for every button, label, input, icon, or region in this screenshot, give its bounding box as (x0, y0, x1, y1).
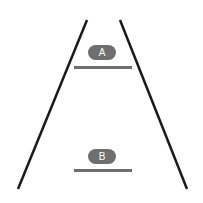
left-edge (18, 20, 87, 189)
level-b-label: B (88, 149, 116, 164)
level-b-line (74, 169, 132, 172)
right-edge (120, 20, 187, 189)
level-a-line (74, 66, 132, 69)
level-a-label: A (88, 45, 116, 60)
trapezoid-edges (0, 0, 203, 203)
